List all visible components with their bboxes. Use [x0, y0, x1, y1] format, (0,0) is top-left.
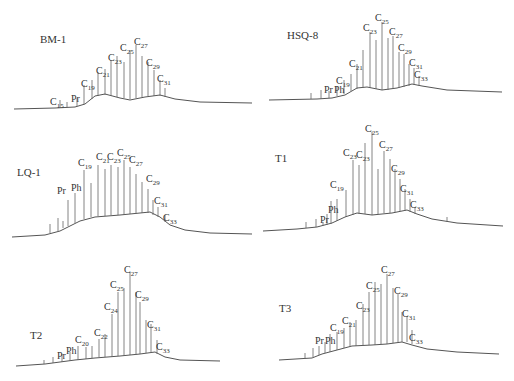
- chromatogram-trace: [0, 0, 257, 127]
- peak-label: C33: [163, 213, 177, 226]
- sample-label: T3: [279, 302, 291, 314]
- peak-label: C33: [156, 342, 170, 355]
- peak-label: C29: [146, 58, 160, 71]
- chromatogram-bm-1: BM-1 C15PrC19C21C23C25C27C29C31: [0, 0, 257, 127]
- peak-label: C31: [154, 196, 168, 209]
- peak-label: Ph: [328, 205, 339, 215]
- peak-label: C21: [96, 66, 110, 79]
- peak-label: C29: [135, 290, 149, 303]
- peak-label: Pr: [315, 336, 324, 346]
- peak-label: C31: [147, 320, 161, 333]
- peak-label: C33: [410, 200, 424, 213]
- peak-label: C29: [146, 174, 160, 187]
- peak-label: C31: [157, 74, 171, 87]
- peak-label: C29: [398, 43, 412, 56]
- chromatogram-t2: T2 PrPhC20C22C24C25C27C29C31C33: [0, 254, 257, 381]
- peak-label: C25: [110, 280, 124, 293]
- peak-label: Pr: [71, 94, 80, 104]
- peak-label: C23: [356, 150, 370, 163]
- peak-label: C33: [414, 70, 428, 83]
- peak-label: C27: [129, 155, 143, 168]
- sample-label: T2: [30, 329, 42, 341]
- peak-label: C29: [391, 164, 405, 177]
- peak-label: Pr: [324, 85, 333, 95]
- peak-label: C33: [409, 333, 423, 346]
- chromatogram-trace: [0, 127, 257, 254]
- peak-label: C21: [349, 59, 363, 72]
- peak-label: C31: [402, 309, 416, 322]
- chromatogram-lq-1: LQ-1 PrPhC19C21C23C25C27C29C31C33: [0, 127, 257, 254]
- peak-label: C27: [134, 37, 148, 50]
- peak-label: C27: [381, 265, 395, 278]
- peak-label: Ph: [325, 336, 336, 346]
- chromatogram-hsq-8: HSQ-8 PrPhC19C21C23C25C27C29C31C33: [257, 0, 514, 127]
- peak-label: Ph: [71, 183, 82, 193]
- peak-label: C21: [342, 316, 356, 329]
- sample-label: BM-1: [40, 33, 66, 45]
- peak-label: C25: [375, 13, 389, 26]
- peak-label: Pr: [320, 215, 329, 225]
- peak-label: C23: [356, 301, 370, 314]
- sample-label: T1: [275, 152, 287, 164]
- peak-label: C22: [94, 328, 108, 341]
- peak-label: C15: [50, 97, 64, 110]
- peak-label: C25: [365, 124, 379, 137]
- peak-label: C23: [343, 148, 357, 161]
- sample-label: LQ-1: [17, 166, 41, 178]
- peak-label: C20: [75, 335, 89, 348]
- peak-label: C27: [379, 140, 393, 153]
- peak-label: C19: [330, 180, 344, 193]
- peak-label: Pr: [57, 351, 66, 361]
- peak-label: C25: [120, 43, 134, 56]
- peak-label: C31: [400, 184, 414, 197]
- peak-label: C25: [366, 281, 380, 294]
- peak-label: C19: [81, 79, 95, 92]
- peak-label: Pr: [57, 186, 66, 196]
- chromatogram-t3: T3 PrPhC19C21C23C25C27C29C31C33: [257, 254, 514, 381]
- peak-label: C27: [124, 265, 138, 278]
- peak-label: C27: [389, 27, 403, 40]
- sample-label: HSQ-8: [287, 29, 318, 41]
- peak-label: C29: [394, 286, 408, 299]
- peak-label: C19: [78, 158, 92, 171]
- peak-label: C24: [104, 302, 118, 315]
- chromatogram-t1: T1 PrPhC19C23C23C25C27C29C31C33: [257, 127, 514, 254]
- peak-label: C19: [336, 76, 350, 89]
